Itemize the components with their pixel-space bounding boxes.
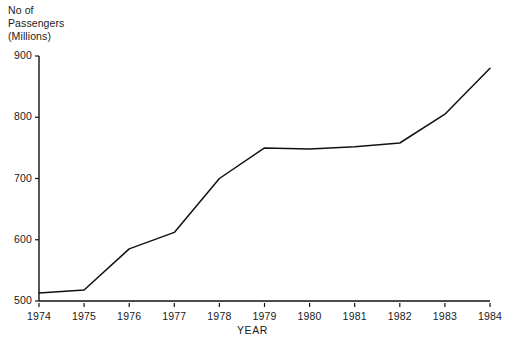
line-chart: No of Passengers (Millions) 500600700800… — [0, 0, 505, 345]
x-axis-title: YEAR — [0, 324, 505, 336]
x-axis-tick-marks — [39, 303, 490, 307]
axes — [39, 56, 490, 301]
data-series-line — [39, 68, 490, 293]
plot-area — [0, 0, 505, 345]
